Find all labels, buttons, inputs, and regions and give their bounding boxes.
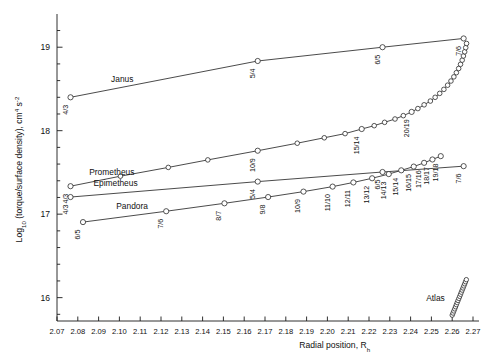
x-tick-label: 2.27	[466, 327, 481, 336]
x-tick-label: 2.26	[445, 327, 460, 336]
data-point-prometheus	[322, 135, 327, 140]
point-label: 5/4	[249, 68, 257, 78]
x-tick-label: 2.13	[174, 327, 189, 336]
x-tick-label: 2.14	[195, 327, 210, 336]
x-tick-label: 2.22	[362, 327, 377, 336]
data-point-prometheus	[433, 95, 438, 100]
data-point-pandora	[301, 189, 306, 194]
y-axis-title: Log10 (torque/surface density), cm4 s-2	[13, 96, 27, 242]
data-point-pandora	[80, 219, 85, 224]
x-tick-label: 2.17	[258, 327, 273, 336]
data-point-janus	[68, 95, 73, 100]
x-tick-label: 2.12	[154, 327, 169, 336]
point-label: 9/8	[259, 205, 267, 215]
x-tick-label: 2.24	[403, 327, 418, 336]
x-tick-label: 2.09	[91, 327, 106, 336]
x-tick-label: 2.19	[299, 327, 314, 336]
data-point-prometheus	[68, 184, 73, 189]
data-point-prometheus	[166, 165, 171, 170]
series-label-atlas: Atlas	[426, 293, 445, 303]
data-point-pandora	[266, 194, 271, 199]
point-label: 7/6	[455, 174, 463, 184]
data-point-prometheus	[343, 131, 348, 136]
x-tick-label: 2.11	[133, 327, 147, 336]
data-point-epimetheus	[68, 194, 73, 199]
y-tick-label: 17	[40, 209, 50, 219]
data-point-pandora	[351, 180, 356, 185]
data-point-prometheus	[449, 79, 454, 84]
data-point-prometheus	[437, 91, 442, 96]
series-label-epimetheus: Epimetheus	[93, 178, 137, 188]
data-point-janus	[461, 36, 466, 41]
data-point-pandora	[370, 176, 375, 181]
point-label: 11/10	[324, 194, 332, 211]
point-label: 14/13	[380, 182, 388, 200]
point-label: 10/9	[249, 158, 257, 172]
point-label: 15/14	[392, 178, 400, 196]
data-point-prometheus	[428, 99, 433, 104]
point-label: 6/5	[74, 230, 82, 240]
data-point-janus	[255, 58, 260, 63]
point-label: 18/17	[423, 167, 431, 185]
x-tick-label: 2.23	[382, 327, 397, 336]
x-tick-label: 2.08	[70, 327, 85, 336]
point-label: 19/18	[432, 164, 440, 182]
point-label: 13/12	[363, 186, 371, 204]
data-point-prometheus	[452, 75, 457, 80]
data-point-atlas	[464, 277, 468, 281]
data-point-epimetheus	[380, 169, 385, 174]
data-point-pandora	[430, 157, 435, 162]
data-point-prometheus	[464, 41, 469, 46]
data-point-epimetheus	[255, 179, 260, 184]
series-line-janus	[71, 38, 464, 97]
chart-canvas: 2.072.082.092.102.112.122.132.142.152.16…	[0, 0, 492, 363]
data-point-prometheus	[255, 148, 260, 153]
point-label: 8/7	[215, 211, 223, 221]
x-tick-label: 2.15	[216, 327, 231, 336]
data-point-epimetheus	[461, 164, 466, 169]
point-label: 12/11	[344, 190, 352, 207]
data-point-prometheus	[422, 103, 427, 108]
point-label: 4/3	[62, 105, 70, 115]
chart-figure: 2.072.082.092.102.112.122.132.142.152.16…	[0, 0, 492, 363]
point-label: 7/6	[157, 219, 165, 229]
data-point-prometheus	[416, 106, 421, 111]
data-point-pandora	[164, 209, 169, 214]
x-tick-label: 2.18	[278, 327, 293, 336]
point-label: 15/14	[353, 136, 361, 154]
point-label: 10/9	[294, 199, 302, 213]
data-point-pandora	[330, 184, 335, 189]
data-point-pandora	[438, 154, 443, 159]
data-point-prometheus	[393, 117, 398, 122]
y-tick-label: 16	[40, 293, 50, 303]
data-point-pandora	[399, 168, 404, 173]
data-point-prometheus	[442, 87, 447, 92]
data-point-pandora	[411, 164, 416, 169]
data-point-prometheus	[409, 109, 414, 114]
data-point-pandora	[422, 160, 427, 165]
point-label: 4/3	[62, 205, 70, 215]
point-label: 16/15	[405, 174, 413, 192]
x-tick-label: 2.21	[341, 327, 356, 336]
series-label-janus: Janus	[111, 74, 133, 84]
x-tick-label: 2.25	[424, 327, 439, 336]
data-point-prometheus	[382, 120, 387, 125]
data-point-janus	[380, 45, 385, 50]
data-point-pandora	[386, 171, 391, 176]
data-point-prometheus	[359, 126, 364, 131]
y-tick-label: 19	[40, 42, 50, 52]
x-tick-label: 2.20	[320, 327, 335, 336]
point-label: 20/19	[403, 119, 411, 137]
y-tick-label: 18	[40, 126, 50, 136]
data-point-prometheus	[295, 141, 300, 146]
x-tick-label: 2.10	[112, 327, 127, 336]
data-point-pandora	[222, 201, 227, 206]
series-label-prometheus: Prometheus	[89, 167, 134, 177]
point-label: 17/16	[415, 170, 423, 188]
series-label-pandora: Pandora	[116, 201, 148, 211]
x-tick-label: 2.07	[50, 327, 65, 336]
x-tick-label: 2.16	[237, 327, 252, 336]
data-point-prometheus	[372, 123, 377, 128]
x-axis-title: Radial position, Rh	[299, 340, 370, 353]
series-line-prometheus	[71, 43, 467, 186]
